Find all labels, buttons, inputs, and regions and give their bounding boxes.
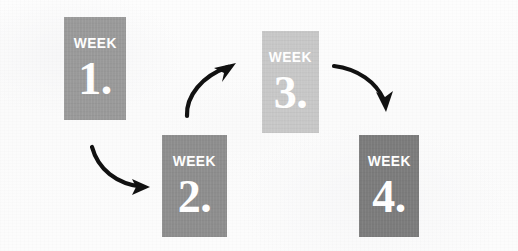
week-card-1-number: 1. — [78, 56, 112, 102]
arrow-week2-to-week3-icon — [180, 58, 260, 120]
arrow-week3-to-week4-icon — [330, 60, 400, 118]
week-card-3-label: WEEK — [269, 49, 312, 64]
week-card-2-label: WEEK — [173, 153, 216, 168]
week-card-1-label: WEEK — [74, 35, 117, 50]
diagram-canvas: WEEK 1. WEEK 2. WEEK 3. WEEK 4. — [0, 0, 518, 251]
week-card-4-label: WEEK — [368, 153, 411, 168]
week-card-2-number: 2. — [178, 174, 212, 220]
week-card-3-number: 3. — [274, 70, 308, 116]
week-card-4-number: 4. — [372, 174, 406, 220]
arrow-week1-to-week2-icon — [88, 142, 168, 197]
week-card-4[interactable]: WEEK 4. — [359, 135, 419, 237]
week-card-2[interactable]: WEEK 2. — [162, 135, 227, 237]
week-card-3[interactable]: WEEK 3. — [262, 31, 319, 133]
week-card-1[interactable]: WEEK 1. — [64, 17, 126, 120]
